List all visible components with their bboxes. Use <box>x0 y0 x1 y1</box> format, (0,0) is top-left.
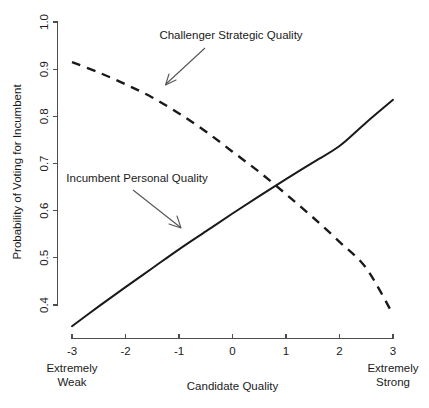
y-axis-ticks <box>53 22 58 305</box>
x-tick-label-1: -2 <box>120 345 130 357</box>
y-tick-label-2: 0.6 <box>38 203 50 219</box>
x-tick-label-3: 0 <box>229 345 235 357</box>
data-series-group <box>72 62 393 326</box>
x-endcap-high-line1: Extremely <box>367 362 418 374</box>
x-axis-low-endcap: Extremely Weak <box>46 362 97 388</box>
annotation-label-incumbent: Incumbent Personal Quality <box>66 172 208 184</box>
y-axis-title: Probability of Voting for Incumbent <box>11 84 23 260</box>
x-axis-tick-labels: -3 -2 -1 0 1 2 3 <box>67 345 396 357</box>
y-tick-label-0: 0.4 <box>38 296 50 313</box>
y-axis: 1.0 0.9 0.8 0.7 0.6 0.5 0.4 Probability … <box>11 14 58 313</box>
y-axis-tick-labels: 1.0 0.9 0.8 0.7 0.6 0.5 0.4 <box>38 14 50 313</box>
x-tick-label-0: -3 <box>67 345 77 357</box>
x-endcap-low-line2: Weak <box>57 376 86 388</box>
y-tick-label-3: 0.7 <box>38 156 50 172</box>
x-endcap-low-line1: Extremely <box>46 362 97 374</box>
x-tick-label-6: 3 <box>390 345 396 357</box>
plot-canvas: 1.0 0.9 0.8 0.7 0.6 0.5 0.4 Probability … <box>0 0 429 408</box>
series-challenger-strategic-quality <box>72 62 393 314</box>
chart-figure: 1.0 0.9 0.8 0.7 0.6 0.5 0.4 Probability … <box>0 0 429 408</box>
annotation-incumbent: Incumbent Personal Quality <box>66 172 208 228</box>
x-axis: -3 -2 -1 0 1 2 3 Extremely Weak Extremel… <box>46 334 418 393</box>
x-endcap-high-line2: Strong <box>376 376 410 388</box>
x-axis-ticks <box>72 334 393 339</box>
x-axis-high-endcap: Extremely Strong <box>367 362 418 388</box>
x-tick-label-4: 1 <box>283 345 289 357</box>
x-tick-label-5: 2 <box>336 345 342 357</box>
x-tick-label-2: -1 <box>174 345 184 357</box>
annotation-arrow-challenger <box>166 48 205 84</box>
annotation-label-challenger: Challenger Strategic Quality <box>159 29 302 41</box>
x-axis-title: Candidate Quality <box>187 380 279 392</box>
y-tick-label-5: 0.9 <box>38 61 50 77</box>
annotation-arrow-incumbent <box>133 190 180 227</box>
series-incumbent-personal-quality <box>72 100 393 326</box>
annotation-challenger: Challenger Strategic Quality <box>159 29 302 85</box>
y-tick-label-1: 0.5 <box>38 250 50 266</box>
y-tick-label-6: 1.0 <box>38 14 50 30</box>
y-tick-label-4: 0.8 <box>38 108 50 124</box>
